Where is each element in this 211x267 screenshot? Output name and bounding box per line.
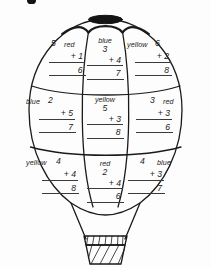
balloon-suspension-line-right: [125, 203, 140, 239]
color-word-bottom-left: yellow: [26, 159, 47, 166]
basket-body-hatching: [89, 245, 125, 264]
color-word-top-left: red: [64, 41, 75, 48]
answer-bottom-center: 6: [87, 192, 124, 203]
color-word-top-right: yellow: [127, 41, 148, 48]
top-number-top-right: 6: [155, 39, 160, 48]
answer-middle-center: 8: [87, 128, 124, 139]
top-number-bottom-right: 4: [140, 157, 145, 166]
color-word-middle-left: blue: [26, 98, 40, 105]
cell-header-middle-right: 3 red: [126, 97, 180, 109]
addend-middle-center: + 3: [87, 115, 123, 126]
basket-top-band-hatching: [87, 236, 124, 245]
answer-middle-right: 6: [136, 123, 173, 134]
top-number-middle-center: 5: [78, 104, 132, 113]
top-number-bottom-left: 4: [56, 157, 61, 166]
problem-cell-top-right: yellow 6 + 2 8: [119, 40, 173, 76]
color-word-bottom-center: red: [78, 160, 132, 167]
addend-bottom-center: + 4: [87, 179, 123, 190]
color-word-middle-right: red: [163, 98, 174, 105]
balloon-crown-vent: [89, 15, 123, 23]
top-number-middle-right: 3: [150, 96, 155, 105]
answer-bottom-left: 8: [42, 184, 79, 195]
problem-cell-bottom-right: 4 blue + 3 7: [126, 158, 180, 194]
answer-top-right: 8: [135, 66, 172, 77]
answer-bottom-right: 7: [128, 184, 165, 195]
problem-cell-bottom-center: red 2 + 4 6: [78, 160, 132, 203]
addend-top-center: + 4: [87, 56, 123, 67]
addend-top-right: + 2: [135, 52, 171, 63]
answer-middle-left: 7: [39, 123, 76, 134]
addend-middle-right: + 3: [136, 109, 172, 120]
balloon-crown-scallop-center: [89, 26, 123, 32]
balloon-band-divider-upper: [32, 86, 181, 95]
cell-header-bottom-center: red 2: [78, 160, 132, 177]
addend-bottom-left: + 4: [42, 170, 78, 181]
top-number-bottom-center: 2: [78, 168, 132, 177]
problem-cell-bottom-left: yellow 4 + 4 8: [26, 158, 80, 194]
top-number-top-left: 5: [51, 39, 56, 48]
problem-cell-middle-left: blue 2 + 5 7: [26, 97, 80, 133]
addend-bottom-right: + 3: [128, 170, 164, 181]
cell-header-middle-center: yellow 5: [78, 96, 132, 113]
top-number-middle-left: 2: [48, 96, 53, 105]
problem-cell-middle-center: yellow 5 + 3 8: [78, 96, 132, 139]
color-word-middle-center: yellow: [78, 96, 132, 103]
worksheet-page: 5 red + 1 6 blue 3 + 4 7 yellow 6 + 2 8 …: [0, 0, 211, 267]
color-word-bottom-right: blue: [157, 159, 171, 166]
answer-top-center: 7: [87, 69, 124, 80]
balloon-band-divider-lower: [31, 147, 182, 155]
balloon-suspension-line-left: [71, 203, 86, 239]
problem-cell-middle-right: 3 red + 3 6: [126, 97, 180, 133]
addend-middle-left: + 5: [39, 109, 75, 120]
